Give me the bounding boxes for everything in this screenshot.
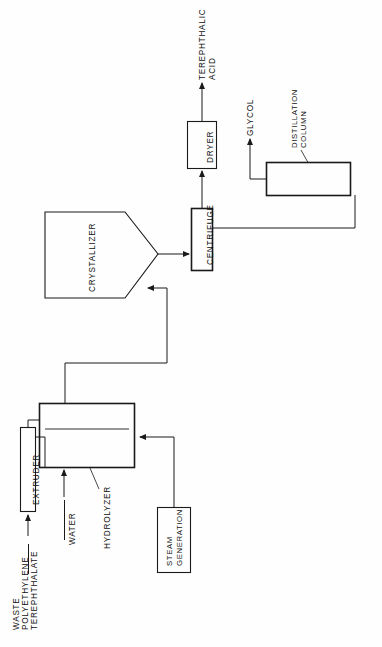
distillation-column-leader [301, 150, 308, 163]
crystallizer-shape [45, 212, 158, 298]
label-waste-pet-line3: TEREPHTHALATE [30, 551, 40, 630]
glycol-stream-line [250, 139, 267, 179]
label-dryer: DRYER [206, 131, 216, 163]
label-hydrolyzer: HYDROLYZER [103, 486, 113, 549]
label-extruder: EXTRUDER [32, 454, 42, 505]
label-crystallizer: CRYSTALLIZER [88, 223, 98, 292]
water-leader-line [64, 500, 65, 540]
process-flow-lines [0, 0, 382, 647]
steam-to-hydrolyzer-line [140, 437, 174, 508]
hydrolyzer-box [40, 404, 135, 468]
extruder-to-hydrolyzer-upper [28, 420, 40, 428]
label-steam-generation-line2: GENERATION [176, 509, 185, 566]
label-terephthalic-acid-line2: ACID [208, 57, 218, 80]
label-glycol: GLYCOL [246, 99, 256, 136]
centrifuge-to-distillation-line [213, 195, 356, 228]
flow-diagram-canvas: WASTE POLYETHYLENE TEREPHTHALATE EXTRUDE… [0, 0, 382, 647]
label-terephthalic-acid-line1: TEREPHTHALIC [198, 9, 208, 80]
hydrolyzer-leader [90, 468, 99, 489]
label-steam-generation-line1: STEAM [166, 536, 175, 566]
feed-leader-line [28, 544, 29, 574]
label-water: WATER [68, 513, 78, 545]
hydrolyzer-to-crystallizer-line [65, 288, 167, 404]
label-centrifuge: CENTRIFUGE [206, 204, 216, 265]
distillation-column-box [267, 163, 351, 196]
label-distillation-column-line2: COLUMN [300, 111, 309, 148]
